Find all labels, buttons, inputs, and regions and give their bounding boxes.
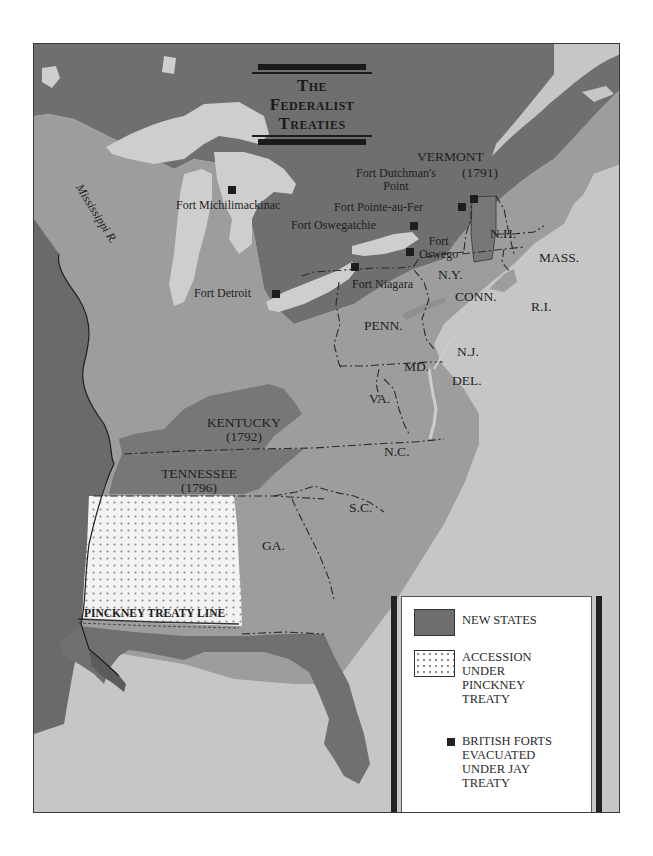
- title-rule: [252, 135, 372, 137]
- va-label: VA.: [369, 392, 390, 406]
- fort-detroit-label: Fort Detroit: [194, 287, 251, 300]
- kentucky-label: KENTUCKY (1792): [184, 416, 304, 444]
- new-states-swatch: [414, 609, 455, 636]
- fort-oswegatchie-label: Fort Oswegatchie: [291, 219, 376, 232]
- nh-label: N.H.: [490, 227, 516, 241]
- legend-forts-line: BRITISH FORTS: [462, 734, 552, 748]
- fort-dutchmans-point-marker: [470, 195, 478, 203]
- del-label: DEL.: [452, 374, 482, 388]
- title-top-bar: [258, 64, 366, 70]
- kentucky-year: (1792): [226, 429, 262, 444]
- fort-dutchmans-line2: Point: [383, 179, 408, 193]
- fort-pointe-au-fer-marker: [458, 203, 466, 211]
- tennessee-name: TENNESSEE: [161, 466, 237, 481]
- title-line-2: Federalist: [252, 95, 372, 114]
- mass-label: MASS.: [539, 251, 579, 265]
- nj-label: N.J.: [457, 345, 479, 359]
- legend-british-forts-label: BRITISH FORTS EVACUATED UNDER JAY TREATY: [462, 734, 552, 790]
- pinckney-treaty-line-label: PINCKNEY TREATY LINE: [84, 607, 225, 619]
- title-line-1: The: [252, 76, 372, 95]
- pinckney-swatch: [414, 650, 455, 677]
- british-fort-swatch-icon: [447, 738, 455, 746]
- legend-pinckney-label: ACCESSION UNDER PINCKNEY TREATY: [462, 650, 531, 706]
- legend-new-states-label: NEW STATES: [462, 613, 537, 627]
- fort-oswegatchie-marker: [410, 222, 418, 230]
- legend-pinckney-line: PINCKNEY: [462, 678, 525, 692]
- fort-detroit-marker: [272, 290, 280, 298]
- vermont-label: VERMONT: [417, 150, 484, 164]
- fort-oswego-line2: Oswego: [419, 247, 458, 261]
- legend-forts-line: EVACUATED: [462, 748, 535, 762]
- fort-pointe-au-fer-label: Fort Pointe-au-Fer: [334, 201, 423, 214]
- fort-michilimackinac-label: Fort Michilimackinac: [176, 199, 280, 212]
- md-label: MD.: [404, 360, 429, 374]
- fort-oswego-marker: [406, 248, 414, 256]
- map-frame: The Federalist Treaties Mississippi R. F…: [33, 43, 620, 813]
- legend: NEW STATES ACCESSION UNDER PINCKNEY TREA…: [401, 596, 592, 813]
- ri-label: R.I.: [531, 300, 551, 314]
- title-rule: [252, 72, 372, 74]
- legend-pinckney-line: ACCESSION: [462, 650, 531, 664]
- legend-left-bar: [391, 596, 397, 813]
- legend-forts-line: TREATY: [462, 776, 510, 790]
- fort-dutchmans-point-label: Fort Dutchman's Point: [356, 167, 436, 192]
- legend-forts-line: UNDER JAY: [462, 762, 530, 776]
- legend-pinckney-line: TREATY: [462, 692, 510, 706]
- fort-michilimackinac-marker: [228, 186, 236, 194]
- ga-label: GA.: [262, 539, 285, 553]
- map-title: The Federalist Treaties: [252, 64, 372, 145]
- title-line-3: Treaties: [252, 114, 372, 133]
- tennessee-label: TENNESSEE (1796): [139, 467, 259, 495]
- tennessee-year: (1796): [181, 480, 217, 495]
- fort-niagara-marker: [351, 263, 359, 271]
- title-bottom-bar: [258, 139, 366, 145]
- kentucky-name: KENTUCKY: [207, 415, 281, 430]
- penn-label: PENN.: [364, 319, 403, 333]
- legend-right-bar: [596, 596, 602, 813]
- vermont-year: (1791): [462, 166, 498, 180]
- nc-label: N.C.: [384, 445, 410, 459]
- fort-oswego-label: Fort Oswego: [419, 235, 458, 260]
- sc-label: S.C.: [349, 501, 372, 515]
- legend-pinckney-line: UNDER: [462, 664, 505, 678]
- ny-label: N.Y.: [438, 268, 463, 282]
- conn-label: CONN.: [455, 290, 497, 304]
- fort-niagara-label: Fort Niagara: [352, 278, 413, 291]
